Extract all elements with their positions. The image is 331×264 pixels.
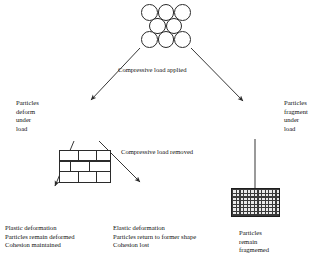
fragment-grain — [259, 194, 261, 196]
fragment-grain — [248, 194, 250, 196]
fragment-grain — [259, 201, 261, 203]
caption-deform-under-load: Particles deform under load — [16, 99, 60, 133]
fragment-grain — [237, 194, 239, 196]
fragment-grain — [248, 201, 250, 203]
fragment-grain — [233, 201, 235, 203]
fragment-grain — [262, 198, 264, 200]
fragment-grain — [277, 194, 279, 196]
node-fragmented-under-load — [231, 188, 280, 217]
fragment-grain — [233, 208, 235, 210]
fragment-grain — [266, 208, 268, 210]
edge-label-load-applied: Compressive load applied — [118, 66, 187, 74]
fragment-grain — [277, 198, 279, 200]
fragment-grain — [251, 212, 253, 214]
fragment-grain — [255, 212, 257, 214]
fragment-grain — [233, 212, 235, 214]
fragment-grain — [255, 205, 257, 207]
fragment-grain — [273, 190, 275, 192]
fragment-grain — [244, 198, 246, 200]
fragment-grain — [259, 208, 261, 210]
fragment-grain — [273, 208, 275, 210]
fragment-grain — [237, 201, 239, 203]
fragment-grain — [248, 198, 250, 200]
fragment-grain — [262, 208, 264, 210]
fragment-grain — [273, 194, 275, 196]
fragment-grain — [244, 205, 246, 207]
fragment-grain — [259, 205, 261, 207]
fragment-grain — [241, 205, 243, 207]
fragment-grain — [251, 198, 253, 200]
fragment-grain — [241, 201, 243, 203]
fragment-grain — [251, 201, 253, 203]
fragment-grain — [262, 194, 264, 196]
fragment-grain — [255, 201, 257, 203]
arrow-intact-to-fragmented — [191, 48, 243, 101]
fragment-grain — [233, 198, 235, 200]
caption-remain-fragmented: Particles remain fragmemed — [239, 229, 299, 255]
fragment-grain — [259, 198, 261, 200]
fragment-grain — [251, 208, 253, 210]
fragment-grain — [262, 190, 264, 192]
diagram-canvas: Compressive load applied Particles defor… — [0, 0, 331, 264]
particle-circle — [158, 31, 175, 48]
node-deformed-under-load — [59, 150, 111, 184]
fragment-grain — [277, 205, 279, 207]
fragment-grain — [241, 208, 243, 210]
fragment-grain — [269, 205, 271, 207]
fragment-grain — [251, 190, 253, 192]
fragment-grain — [266, 194, 268, 196]
fragment-grain — [255, 208, 257, 210]
fragment-grain — [277, 208, 279, 210]
fragment-grain — [244, 212, 246, 214]
fragment-grain — [266, 212, 268, 214]
fragment-grain — [233, 194, 235, 196]
fragment-grain — [269, 190, 271, 192]
fragment-grain — [273, 205, 275, 207]
brick — [96, 171, 111, 182]
fragment-grain — [262, 201, 264, 203]
fragment-grain — [241, 198, 243, 200]
fragment-grain — [248, 212, 250, 214]
fragment-grain — [262, 212, 264, 214]
fragment-grain — [244, 190, 246, 192]
fragment-grain — [273, 198, 275, 200]
fragment-grain — [237, 190, 239, 192]
fragment-grain — [273, 212, 275, 214]
caption-plastic-deformation: Plastic deformation Particles remain def… — [5, 224, 111, 250]
particle-circle — [174, 31, 191, 48]
fragment-grain — [241, 212, 243, 214]
fragment-grain — [251, 194, 253, 196]
brick — [59, 171, 79, 182]
brick — [78, 171, 98, 182]
caption-fragment-under-load: Particles fragment under load — [284, 99, 330, 133]
fragment-grain — [237, 198, 239, 200]
fragment-grain — [233, 205, 235, 207]
caption-elastic-deformation: Elastic deformation Particles return to … — [113, 224, 229, 250]
fragment-grain — [237, 205, 239, 207]
fragment-grain — [273, 201, 275, 203]
fragment-grain — [266, 190, 268, 192]
fragment-grain — [241, 190, 243, 192]
fragment-grain — [266, 198, 268, 200]
fragment-grain — [269, 198, 271, 200]
fragment-grain — [269, 201, 271, 203]
fragment-grain — [255, 190, 257, 192]
fragment-grain — [237, 208, 239, 210]
fragment-grain — [255, 194, 257, 196]
particle-circle — [141, 31, 158, 48]
fragment-grain — [269, 208, 271, 210]
fragment-grain — [244, 194, 246, 196]
fragment-grain — [248, 208, 250, 210]
fragment-grain — [269, 194, 271, 196]
fragment-grain — [241, 194, 243, 196]
fragment-grain — [244, 208, 246, 210]
fragment-grain — [277, 212, 279, 214]
node-intact-particles — [141, 4, 193, 48]
fragment-grain — [259, 190, 261, 192]
fragment-grain — [248, 190, 250, 192]
fragment-grain — [277, 201, 279, 203]
fragment-grain — [266, 201, 268, 203]
fragment-grain — [266, 205, 268, 207]
fragment-grain — [262, 205, 264, 207]
fragment-grain — [237, 212, 239, 214]
